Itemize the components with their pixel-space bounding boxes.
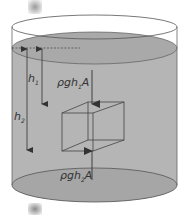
buoyancy-diagram: h1 h2 ρgh1A ρgh2A <box>0 0 188 215</box>
liquid <box>12 32 177 202</box>
container-bottom <box>12 168 177 202</box>
top-force-label: ρgh1A <box>57 76 89 90</box>
bottom-force-label: ρgh2A <box>60 169 92 183</box>
